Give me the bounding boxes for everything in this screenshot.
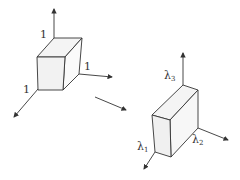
label-top: 1: [40, 28, 47, 41]
x-axis: [79, 74, 112, 77]
label-lambda3: λ3: [164, 69, 175, 83]
label-lambda2: λ2: [192, 133, 203, 147]
diagram-canvas: 1 1 1 λ1 λ2 λ3: [0, 0, 240, 180]
box-front-face: [152, 115, 171, 157]
transform-arrow-icon: [95, 97, 126, 110]
label-lambda1: λ1: [137, 140, 148, 154]
label-front: 1: [23, 83, 30, 96]
cube-front-face: [37, 57, 65, 90]
scaled-box: λ1 λ2 λ3: [137, 53, 228, 169]
label-right: 1: [84, 60, 91, 73]
y-axis: [144, 152, 155, 169]
unit-cube: 1 1 1: [14, 9, 112, 117]
